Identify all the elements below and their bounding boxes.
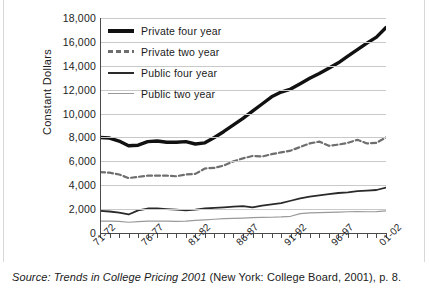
legend-swatch-line-icon [108, 26, 134, 36]
series-line [100, 211, 386, 222]
x-axis-tick [119, 233, 120, 238]
source-caption: Source: Trends in College Pricing 2001 (… [12, 270, 422, 284]
y-axis-tick-label: 0 [32, 228, 96, 239]
legend-swatch-dashed-line-icon [108, 47, 134, 57]
chart-plot-wrapper: Constant Dollars 18,00016,00014,00012,00… [0, 0, 429, 262]
x-axis-tick [376, 233, 377, 238]
gridline [100, 185, 386, 186]
gridline [100, 209, 386, 210]
legend-item-public-two-year[interactable]: Public two year [108, 83, 236, 104]
x-axis-tick [319, 233, 320, 238]
gridline [100, 137, 386, 138]
y-axis-tick-label: 16,000 [32, 37, 96, 48]
y-axis-tick-label: 12,000 [32, 85, 96, 96]
x-axis-tick [214, 233, 215, 238]
x-axis-tick [272, 233, 273, 238]
x-axis-tick [224, 233, 225, 238]
x-axis-tick [357, 233, 358, 238]
legend-swatch-line-icon [108, 68, 134, 78]
y-axis-tick-label: 6,000 [32, 156, 96, 167]
legend-label: Private two year [141, 46, 219, 58]
x-axis-tick [129, 233, 130, 238]
legend-item-private-two-year[interactable]: Private two year [108, 41, 236, 62]
legend-label: Public two year [141, 88, 215, 100]
x-axis-tick [138, 233, 139, 238]
caption-title: Trends in College Pricing 2001 [54, 271, 207, 283]
gridline [100, 18, 386, 19]
gridline [100, 114, 386, 115]
y-axis-line [100, 18, 101, 234]
legend-item-public-four-year[interactable]: Public four year [108, 62, 236, 83]
x-axis-tick [176, 233, 177, 238]
y-axis-tick-label: 10,000 [32, 109, 96, 120]
x-axis-tick [329, 233, 330, 238]
legend-label: Public four year [141, 67, 217, 79]
x-axis-tick [281, 233, 282, 238]
y-axis-tick-labels: 18,00016,00014,00012,00010,0008,0006,000… [28, 0, 96, 262]
gridline [100, 161, 386, 162]
x-axis-tick [367, 233, 368, 238]
y-axis-tick-label: 18,000 [32, 13, 96, 24]
y-axis-tick-label: 4,000 [32, 180, 96, 191]
series-line [100, 188, 386, 215]
x-axis-tick [186, 233, 187, 238]
y-axis-tick-label: 8,000 [32, 132, 96, 143]
legend-label: Private four year [141, 25, 221, 37]
x-axis-tick [310, 233, 311, 238]
y-axis-tick-label: 14,000 [32, 61, 96, 72]
y-axis-tick-label: 2,000 [32, 204, 96, 215]
chart-legend: Private four year Private two year Publi… [108, 20, 236, 104]
figure-container: Constant Dollars 18,00016,00014,00012,00… [0, 0, 429, 298]
x-axis-tick [167, 233, 168, 238]
caption-prefix: Source: [12, 271, 51, 283]
x-axis-tick [233, 233, 234, 238]
x-axis-tick [262, 233, 263, 238]
legend-item-private-four-year[interactable]: Private four year [108, 20, 236, 41]
legend-swatch-line-icon [108, 89, 134, 99]
caption-suffix: (New York: College Board, 2001), p. 8. [210, 271, 402, 283]
